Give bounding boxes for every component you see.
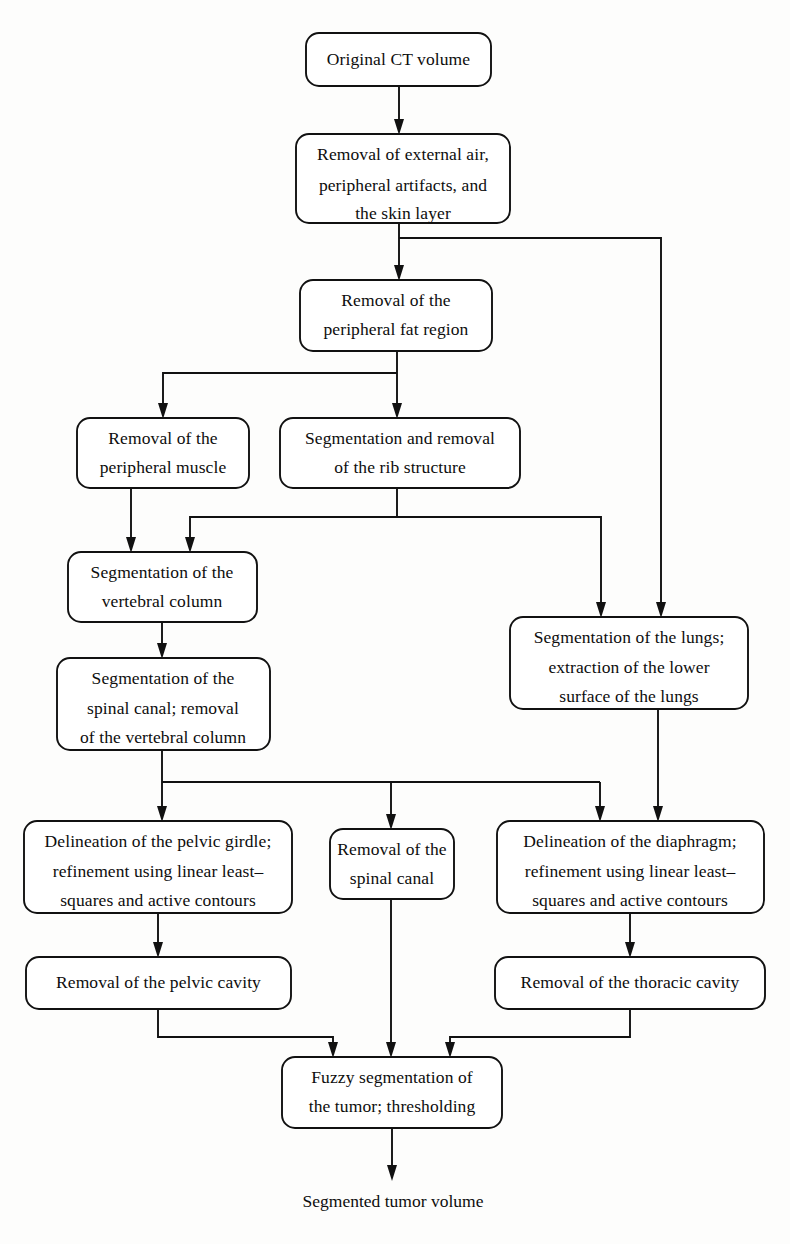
node-delineation-diaphragm[interactable]: Delineation of the diaphragm; refinement… xyxy=(497,821,764,913)
node-label-line: Delineation of the diaphragm; xyxy=(523,831,736,851)
node-label-line: vertebral column xyxy=(102,591,223,611)
edge-n12-n14 xyxy=(158,1009,333,1049)
arrowhead-n12-n14 xyxy=(328,1042,338,1058)
flowchart-canvas: Original CT volume Removal of external a… xyxy=(0,0,790,1244)
arrowhead-n2-n8 xyxy=(656,602,666,618)
node-removal-thoracic-cavity[interactable]: Removal of the thoracic cavity xyxy=(495,957,765,1009)
node-segmentation-rib-structure[interactable]: Segmentation and removal of the rib stru… xyxy=(280,418,520,488)
node-fuzzy-segmentation-tumor[interactable]: Fuzzy segmentation of the tumor; thresho… xyxy=(282,1057,502,1128)
arrowhead-n3-n5 xyxy=(392,403,402,419)
node-label-line: squares and active contours xyxy=(60,890,256,910)
edge-n5-n6 xyxy=(190,517,397,544)
node-segmented-tumor-volume: Segmented tumor volume xyxy=(303,1191,484,1211)
arrowhead-n10-n14 xyxy=(386,1042,396,1058)
node-label-line: refinement using linear least– xyxy=(525,861,736,881)
edge-n13-n14 xyxy=(450,1009,630,1049)
arrowhead-n8-n11 xyxy=(653,806,663,822)
node-removal-spinal-canal[interactable]: Removal of the spinal canal xyxy=(330,829,454,899)
node-label-line: Segmented tumor volume xyxy=(303,1191,484,1211)
node-label-line: Fuzzy segmentation of xyxy=(311,1067,473,1087)
edge-n5-n8 xyxy=(397,517,601,609)
arrowhead-n13-n14 xyxy=(445,1042,455,1058)
arrowhead-n5-n6 xyxy=(185,537,195,553)
node-label-line: squares and active contours xyxy=(532,890,728,910)
node-label-line: Removal of the xyxy=(341,290,450,310)
node-label-line: Removal of the pelvic cavity xyxy=(56,972,261,992)
node-label-line: spinal canal; removal xyxy=(87,698,239,718)
node-label-line: Original CT volume xyxy=(327,49,471,69)
node-label-line: peripheral artifacts, and xyxy=(319,175,487,195)
arrowhead-n7-n10 xyxy=(386,814,396,830)
node-label-line: Removal of the thoracic cavity xyxy=(521,972,740,992)
node-label-line: surface of the lungs xyxy=(559,686,699,706)
arrowhead-n4-n6 xyxy=(126,537,136,553)
arrowhead-n5-n8 xyxy=(596,602,606,618)
node-removal-external-air[interactable]: Removal of external air, peripheral arti… xyxy=(296,134,510,223)
node-removal-peripheral-fat[interactable]: Removal of the peripheral fat region xyxy=(300,280,492,351)
node-layer: Original CT volume Removal of external a… xyxy=(24,33,765,1211)
edge-n3-n4 xyxy=(163,373,397,410)
node-label-line: Segmentation of the xyxy=(91,562,234,582)
arrowhead-n7-n9 xyxy=(157,806,167,822)
arrowhead-n14-n15 xyxy=(387,1165,397,1181)
arrowhead-n9-n12 xyxy=(153,942,163,958)
arrowhead-n6-n7 xyxy=(157,643,167,659)
arrowhead-n1-n2 xyxy=(394,119,404,135)
node-removal-peripheral-muscle[interactable]: Removal of the peripheral muscle xyxy=(77,418,249,488)
node-label-line: extraction of the lower xyxy=(548,657,709,677)
node-label-line: Removal of the xyxy=(337,839,446,859)
arrowhead-n2-n3 xyxy=(394,265,404,281)
node-label-line: the tumor; thresholding xyxy=(309,1096,476,1116)
node-segmentation-spinal-canal[interactable]: Segmentation of the spinal canal; remova… xyxy=(57,658,270,750)
node-label-line: Removal of external air, xyxy=(317,144,489,164)
node-label-line: Segmentation of the xyxy=(92,668,235,688)
node-label-line: Removal of the xyxy=(108,428,217,448)
node-label-line: Delineation of the pelvic girdle; xyxy=(45,831,272,851)
node-label-line: peripheral muscle xyxy=(100,457,227,477)
node-segmentation-lungs[interactable]: Segmentation of the lungs; extraction of… xyxy=(510,617,748,709)
arrowhead-n7-n11 xyxy=(595,806,605,822)
node-label-line: the skin layer xyxy=(355,203,451,223)
node-label-line: Segmentation and removal xyxy=(305,428,495,448)
node-label-line: spinal canal xyxy=(350,868,434,888)
node-label-line: peripheral fat region xyxy=(324,319,469,339)
node-label-line: of the vertebral column xyxy=(80,727,246,747)
node-label-line: Segmentation of the lungs; xyxy=(534,627,725,647)
flowchart-page: Original CT volume Removal of external a… xyxy=(0,0,790,1244)
node-delineation-pelvic-girdle[interactable]: Delineation of the pelvic girdle; refine… xyxy=(24,821,292,913)
arrowhead-n3-n4 xyxy=(158,403,168,419)
node-removal-pelvic-cavity[interactable]: Removal of the pelvic cavity xyxy=(26,957,291,1009)
node-label-line: refinement using linear least– xyxy=(53,861,264,881)
node-original-ct-volume[interactable]: Original CT volume xyxy=(306,33,491,86)
node-segmentation-vertebral-column[interactable]: Segmentation of the vertebral column xyxy=(68,552,257,622)
arrowhead-n11-n13 xyxy=(625,942,635,958)
node-label-line: of the rib structure xyxy=(334,457,466,477)
